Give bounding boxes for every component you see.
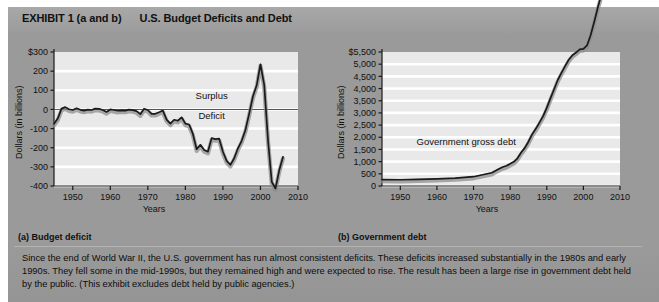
chart-a-canvas: $3002001000-100-200-300-4001950196019701… bbox=[10, 36, 330, 214]
x-axis-tick-label: 1980 bbox=[500, 192, 520, 202]
y-axis-tick-label: 2,000 bbox=[353, 132, 376, 142]
y-axis-tick-label: 2,500 bbox=[353, 120, 376, 130]
y-axis-tick-label: 3,500 bbox=[353, 96, 376, 106]
exhibit-figure: EXHIBIT 1 (a and b) U.S. Budget Deficits… bbox=[0, 0, 659, 302]
chart-annotation: Government gross debt bbox=[417, 136, 517, 147]
x-axis-tick-label: 1990 bbox=[213, 192, 233, 202]
y-axis-tick-label: 200 bbox=[33, 66, 48, 76]
y-axis-tick-label: 0 bbox=[371, 181, 376, 191]
y-axis-tick-label: 0 bbox=[43, 105, 48, 115]
y-axis-tick-label: 1,000 bbox=[353, 157, 376, 167]
chart-b-x-axis-title: Years bbox=[362, 204, 612, 214]
y-axis-tick-label: 100 bbox=[33, 85, 48, 95]
exhibit-label: EXHIBIT 1 (a and b) bbox=[22, 12, 122, 24]
x-axis-tick-label: 2000 bbox=[250, 192, 270, 202]
y-axis-tick-label: 5,000 bbox=[353, 59, 376, 69]
x-axis-tick-label: 1960 bbox=[427, 192, 447, 202]
x-axis-tick-label: 1950 bbox=[63, 192, 83, 202]
chart-a-wrap: Dollars (in billions) $3002001000-100-20… bbox=[10, 36, 330, 216]
x-axis-tick-label: 1970 bbox=[464, 192, 484, 202]
y-axis-tick-label: 500 bbox=[361, 169, 376, 179]
caption-divider bbox=[14, 246, 642, 247]
y-axis-tick-label: -400 bbox=[30, 181, 48, 191]
x-axis-tick-label: 1980 bbox=[175, 192, 195, 202]
exhibit-header: EXHIBIT 1 (a and b) U.S. Budget Deficits… bbox=[22, 12, 292, 24]
plot-area-background bbox=[382, 52, 620, 186]
y-axis-tick-label: 4,000 bbox=[353, 84, 376, 94]
y-axis-tick-label: -200 bbox=[30, 143, 48, 153]
chart-annotation: Surplus bbox=[196, 90, 228, 101]
exhibit-caption: Since the end of World War II, the U.S. … bbox=[22, 252, 634, 292]
x-axis-tick-label: 2010 bbox=[610, 192, 630, 202]
chart-a-x-axis-title: Years bbox=[34, 204, 274, 214]
chart-b-canvas: $5,5005,0004,5004,0003,5003,0002,5002,00… bbox=[332, 36, 654, 214]
panel-budget-deficit: Dollars (in billions) $3002001000-100-20… bbox=[10, 36, 330, 251]
x-axis-tick-label: 1960 bbox=[100, 192, 120, 202]
x-axis-tick-label: 1950 bbox=[390, 192, 410, 202]
chart-b-wrap: Dollars (in billions) $5,5005,0004,5004,… bbox=[332, 36, 654, 216]
x-axis-tick-label: 1970 bbox=[138, 192, 158, 202]
x-axis-tick-label: 1990 bbox=[537, 192, 557, 202]
panel-a-subcaption: (a) Budget deficit bbox=[18, 232, 92, 242]
y-axis-tick-label: $300 bbox=[28, 47, 48, 57]
panel-government-debt: Dollars (in billions) $5,5005,0004,5004,… bbox=[332, 36, 654, 251]
x-axis-tick-label: 2000 bbox=[573, 192, 593, 202]
y-axis-tick-label: 3,000 bbox=[353, 108, 376, 118]
y-axis-tick-label: -100 bbox=[30, 124, 48, 134]
y-axis-tick-label: $5,500 bbox=[348, 47, 376, 57]
y-axis-tick-label: 4,500 bbox=[353, 72, 376, 82]
exhibit-title: U.S. Budget Deficits and Debt bbox=[140, 12, 292, 24]
y-axis-tick-label: -300 bbox=[30, 162, 48, 172]
panel-b-subcaption: (b) Government debt bbox=[338, 232, 427, 242]
y-axis-tick-label: 1,500 bbox=[353, 145, 376, 155]
chart-annotation: Deficit bbox=[198, 110, 225, 121]
x-axis-tick-label: 2010 bbox=[288, 192, 308, 202]
